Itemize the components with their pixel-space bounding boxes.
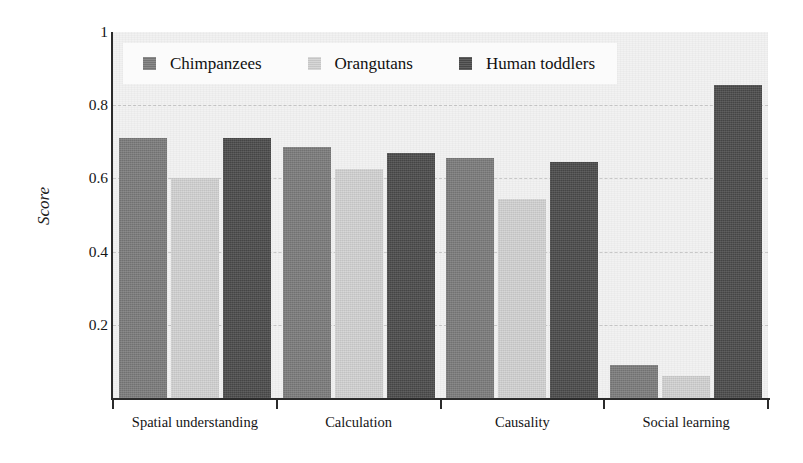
- bar: [446, 158, 494, 398]
- x-tick-label: Calculation: [277, 414, 441, 431]
- bar: [387, 153, 435, 398]
- bar-texture: [335, 169, 383, 398]
- y-axis-tick-labels: 10.80.60.40.2: [56, 0, 108, 463]
- bar-texture: [714, 85, 762, 398]
- y-tick-label: 0.6: [64, 170, 108, 186]
- bar: [283, 147, 331, 398]
- bar-chart-figure: Score 10.80.60.40.2 Spatial understandin…: [0, 0, 803, 463]
- y-tick-label: 0.4: [64, 244, 108, 260]
- bar: [662, 376, 710, 398]
- bar: [498, 199, 546, 398]
- gridline: [113, 105, 768, 106]
- y-tick-label: 0.2: [64, 317, 108, 333]
- legend-swatch-texture: [143, 57, 156, 70]
- bar-texture: [223, 138, 271, 398]
- x-tick-label: Causality: [441, 414, 605, 431]
- bar: [610, 365, 658, 398]
- bar: [223, 138, 271, 398]
- legend-label: Human toddlers: [486, 54, 595, 74]
- legend-item[interactable]: Orangutans: [308, 54, 413, 74]
- y-tick-label: 1: [64, 24, 108, 40]
- legend-swatch-texture: [308, 57, 321, 70]
- legend-item[interactable]: Chimpanzees: [143, 54, 262, 74]
- bar-texture: [498, 199, 546, 398]
- x-tick-mark: [440, 400, 442, 409]
- x-tick-label: Spatial understanding: [113, 414, 277, 431]
- legend-swatch-icon: [308, 57, 321, 70]
- bar-texture: [387, 153, 435, 398]
- x-tick-mark: [603, 400, 605, 409]
- y-axis-label: Score: [34, 176, 54, 236]
- plot-area: [113, 32, 768, 398]
- x-tick-mark: [112, 400, 114, 409]
- bar-texture: [283, 147, 331, 398]
- bar: [714, 85, 762, 398]
- y-tick-label: 0.8: [64, 97, 108, 113]
- legend-label: Orangutans: [335, 54, 413, 74]
- legend-swatch-icon: [143, 57, 156, 70]
- legend-swatch-icon: [459, 57, 472, 70]
- legend-swatch-texture: [459, 57, 472, 70]
- bar-texture: [446, 158, 494, 398]
- bar-texture: [550, 162, 598, 398]
- legend: ChimpanzeesOrangutansHuman toddlers: [123, 43, 617, 84]
- bar: [119, 138, 167, 398]
- bar-texture: [662, 376, 710, 398]
- bar: [550, 162, 598, 398]
- bar-texture: [610, 365, 658, 398]
- x-tick-label: Social learning: [604, 414, 768, 431]
- y-axis-line: [111, 32, 113, 400]
- legend-item[interactable]: Human toddlers: [459, 54, 595, 74]
- legend-label: Chimpanzees: [170, 54, 262, 74]
- x-tick-mark: [767, 400, 769, 409]
- x-tick-mark: [276, 400, 278, 409]
- bar: [171, 178, 219, 398]
- bar: [335, 169, 383, 398]
- bar-texture: [171, 178, 219, 398]
- bar-texture: [119, 138, 167, 398]
